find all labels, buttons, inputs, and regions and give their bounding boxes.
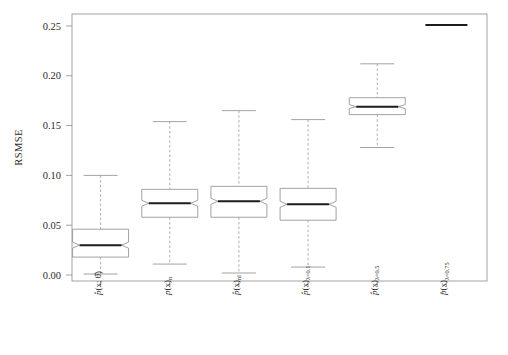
x-category-label: p̂(x)λ=0.1 [300,266,311,296]
box-group [349,64,405,148]
box-group [142,122,198,264]
x-category-label: p̂(x; θ̂) [93,271,103,296]
x-category-label: p̂(x)nl [231,275,242,296]
box-group [73,175,129,274]
y-tick-label: 0.00 [43,270,61,281]
y-tick-label: 0.20 [43,70,61,81]
x-category-label: p̂(x)λ=0.75 [438,262,449,296]
y-tick-label: 0.15 [43,120,61,131]
box-group [280,120,336,267]
box-body [73,229,129,257]
y-axis-title: RSMSE [13,129,24,165]
plot-frame [72,14,487,281]
y-tick-label: 0.05 [43,220,61,231]
x-category-label: p̂(x)λ=0.5 [369,266,380,296]
boxplot-figure: 0.000.050.100.150.200.25RSMSEp̂(x; θ̂)p(… [0,0,508,355]
y-tick-label: 0.25 [43,21,61,32]
x-category-label: p(x)n [162,276,173,296]
box-group [211,111,267,273]
chart-canvas: 0.000.050.100.150.200.25RSMSEp̂(x; θ̂)p(… [0,0,508,355]
y-tick-label: 0.10 [43,170,61,181]
